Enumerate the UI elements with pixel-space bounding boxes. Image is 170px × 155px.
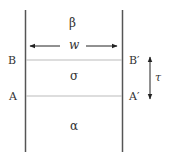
diagram-canvas: β w σ α B A B′ A′ τ	[0, 0, 170, 155]
width-label: w	[69, 39, 79, 51]
region-beta-label: β	[69, 17, 76, 29]
point-a-prime-label: A′	[129, 91, 139, 102]
region-alpha-label: α	[70, 120, 78, 132]
point-b-prime-label: B′	[129, 55, 140, 66]
diagram-svg	[0, 0, 170, 155]
point-a-label: A	[9, 91, 17, 102]
thickness-label: τ	[155, 72, 161, 83]
region-sigma-label: σ	[70, 70, 78, 82]
point-b-label: B	[8, 55, 16, 66]
